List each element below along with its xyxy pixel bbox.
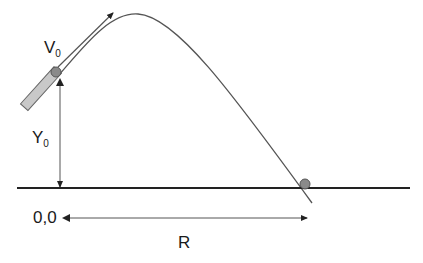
- trajectory-curve: [58, 14, 312, 203]
- height-arrow-head: [56, 78, 64, 86]
- ball-landing: [300, 179, 310, 189]
- velocity-arrow: [58, 13, 113, 67]
- projectile-diagram: [0, 0, 423, 263]
- velocity-label: V0: [44, 38, 61, 59]
- range-label: R: [178, 233, 190, 253]
- ball-launch: [51, 67, 61, 77]
- range-arrow-head-left: [62, 214, 70, 222]
- origin-label: 0,0: [33, 208, 57, 228]
- height-label: Y0: [32, 128, 49, 149]
